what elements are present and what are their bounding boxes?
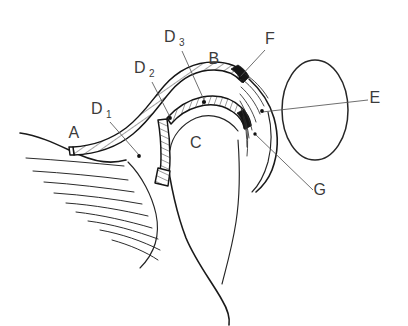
label-D2: D 2 bbox=[134, 59, 155, 79]
membrane-strip-vertical bbox=[155, 119, 170, 186]
label-D3-base: D bbox=[164, 28, 176, 45]
cavity-arc bbox=[170, 116, 238, 150]
label-G: G bbox=[314, 181, 327, 198]
left-striation-lines bbox=[26, 158, 160, 260]
label-F: F bbox=[265, 30, 275, 47]
label-D1-base: D bbox=[91, 100, 103, 117]
anatomical-figure: A B C D 1 D 2 D 3 E F G bbox=[0, 0, 408, 326]
oval-structure bbox=[282, 60, 348, 160]
leader-E bbox=[260, 100, 368, 113]
label-B: B bbox=[208, 50, 219, 67]
membrane-band-lower bbox=[167, 96, 251, 129]
label-D3-subscript: 3 bbox=[179, 37, 185, 48]
right-boundary-curve bbox=[249, 79, 277, 192]
label-D2-base: D bbox=[134, 59, 146, 76]
label-C: C bbox=[190, 134, 202, 151]
label-D1-subscript: 1 bbox=[106, 109, 112, 120]
label-layer: A B C D 1 D 2 D 3 E F G bbox=[68, 28, 380, 198]
diagram-root: A B C D 1 D 2 D 3 E F G bbox=[0, 0, 408, 326]
label-A: A bbox=[68, 124, 79, 141]
label-D1: D 1 bbox=[91, 100, 112, 120]
organ-tail-contour bbox=[166, 140, 239, 325]
label-D3: D 3 bbox=[164, 28, 185, 48]
label-D2-subscript: 2 bbox=[149, 68, 155, 79]
label-E: E bbox=[369, 89, 380, 106]
leader-G bbox=[253, 132, 313, 190]
